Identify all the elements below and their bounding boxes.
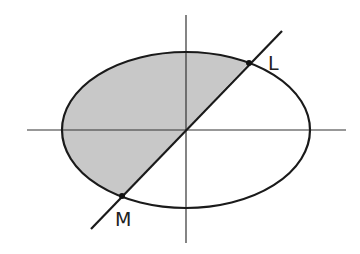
label-l: L [268,52,279,74]
label-m: M [115,208,131,230]
diagram-canvas: L M [0,0,360,254]
ellipse-diagram: L M [0,0,360,254]
point-m-dot [119,193,125,199]
point-l-dot [246,60,252,66]
